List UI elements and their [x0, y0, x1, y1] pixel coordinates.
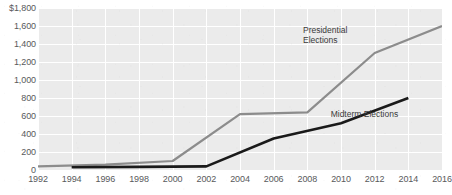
presidential-elections-label: Presidential Elections [303, 25, 347, 45]
y-tick-label: 400 [0, 130, 36, 139]
x-tick-label: 2000 [163, 174, 183, 184]
x-tick-label: 2012 [365, 174, 385, 184]
y-tick-label: 200 [0, 148, 36, 157]
x-axis-tick-labels: 1992199419961998200020022004200620082010… [38, 174, 442, 190]
x-tick-label: 1994 [62, 174, 82, 184]
y-tick-label: 1,200 [0, 58, 36, 67]
y-tick-label: 1,600 [0, 22, 36, 31]
presidential-elections-line [38, 26, 442, 166]
plot-area [38, 8, 442, 170]
series-lines [38, 8, 442, 170]
x-tick-label: 2004 [230, 174, 250, 184]
y-tick-label: $1,800 [0, 4, 36, 13]
y-tick-label: 800 [0, 94, 36, 103]
x-tick-label: 2006 [264, 174, 284, 184]
x-tick-label: 1998 [129, 174, 149, 184]
x-tick-label: 2010 [331, 174, 351, 184]
y-tick-label: 600 [0, 112, 36, 121]
y-tick-label: 1,400 [0, 40, 36, 49]
x-tick-label: 2002 [197, 174, 217, 184]
x-tick-label: 2014 [399, 174, 419, 184]
x-tick-label: 2016 [432, 174, 452, 184]
x-tick-label: 1992 [28, 174, 48, 184]
y-axis-tick-labels: $1,8001,6001,4001,2001,0008006004002000 [0, 8, 36, 170]
midterm-elections-label: Midterm Elections [331, 109, 399, 119]
x-tick-label: 1996 [96, 174, 116, 184]
y-tick-label: 1,000 [0, 76, 36, 85]
x-tick-label: 2008 [298, 174, 318, 184]
